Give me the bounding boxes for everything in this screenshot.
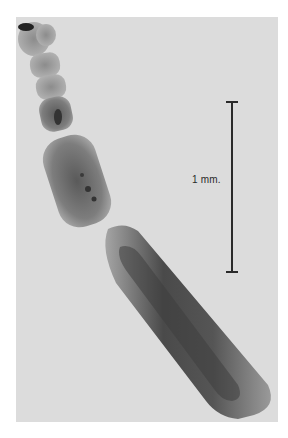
scolex [18, 22, 56, 56]
scale-bar-label: 1 mm. [192, 174, 221, 185]
proglottid-gravid [105, 225, 271, 419]
neck-segments [28, 51, 75, 134]
specimen-illustration [16, 17, 278, 422]
scale-bar [226, 102, 238, 272]
proglottid-middle [37, 129, 117, 233]
micrograph: 1 mm. [16, 17, 278, 422]
